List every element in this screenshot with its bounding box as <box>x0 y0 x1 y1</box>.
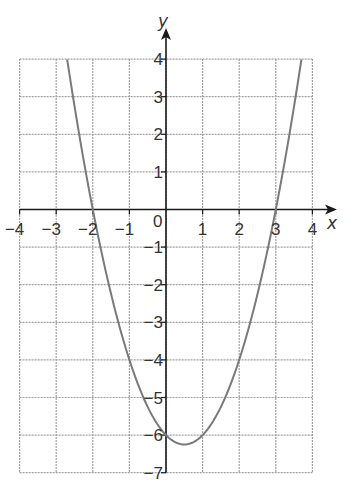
axes <box>20 28 337 473</box>
y-axis-label: y <box>157 11 169 31</box>
y-tick-label: 2 <box>154 125 163 144</box>
parabola-curve <box>67 59 301 444</box>
x-tick-label: 3 <box>271 220 280 239</box>
x-axis-label: x <box>326 213 338 233</box>
y-tick-label: −1 <box>144 238 163 257</box>
y-tick-label: −4 <box>144 351 163 370</box>
x-tick-label: −1 <box>115 220 134 239</box>
x-tick-label: −2 <box>78 220 97 239</box>
y-tick-label: 4 <box>154 50 163 69</box>
quadratic-graph: −4−3−2−11234 4321−1−2−3−4−5−6−7 0 x y <box>0 0 343 494</box>
y-tick-label: −2 <box>144 276 163 295</box>
x-tick-label: 2 <box>234 220 243 239</box>
y-tick-label: −3 <box>144 313 163 332</box>
x-tick-label: −3 <box>42 220 61 239</box>
y-tick-label: −7 <box>144 464 163 483</box>
x-tick-label: 1 <box>198 220 207 239</box>
y-tick-label: −5 <box>144 389 163 408</box>
origin-label: 0 <box>153 212 162 231</box>
y-tick-label: 3 <box>154 88 163 107</box>
x-tick-label: −4 <box>5 220 24 239</box>
y-tick-label: 1 <box>154 163 163 182</box>
y-tick-label: −6 <box>144 426 163 445</box>
x-tick-label: 4 <box>308 220 317 239</box>
